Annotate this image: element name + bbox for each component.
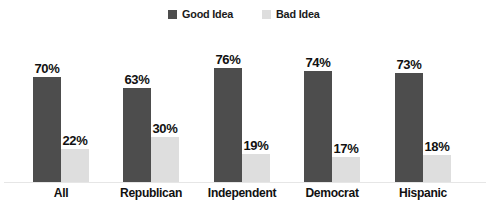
bar-value-label: 70%: [34, 62, 59, 75]
bar-group: 74%17%: [304, 33, 360, 182]
bar-good-idea[interactable]: 70%: [33, 77, 61, 182]
bar-value-label: 74%: [305, 56, 330, 69]
legend-item-good-idea: Good Idea: [168, 9, 236, 21]
bar-group: 73%18%: [395, 33, 451, 182]
bar-group: 76%19%: [214, 33, 270, 182]
bar-chart: Good Idea Bad Idea 70%22%63%30%76%19%74%…: [0, 0, 490, 217]
bar-value-label: 19%: [243, 139, 268, 152]
bar-pair: 73%18%: [395, 73, 451, 183]
bar-rect[interactable]: [123, 88, 151, 183]
bar-bad-idea[interactable]: 22%: [61, 149, 89, 182]
legend-swatch-bad-idea: [262, 10, 271, 19]
bar-pair: 63%30%: [123, 88, 179, 183]
plot-area: 70%22%63%30%76%19%74%17%73%18%: [0, 33, 490, 183]
bar-pair: 76%19%: [214, 68, 270, 182]
bar-value-label: 76%: [215, 53, 240, 66]
bar-rect[interactable]: [61, 149, 89, 182]
category-label: Democrat: [305, 186, 358, 201]
bar-bad-idea[interactable]: 19%: [242, 154, 270, 183]
bar-value-label: 17%: [333, 142, 358, 155]
bar-good-idea[interactable]: 74%: [304, 71, 332, 182]
bar-rect[interactable]: [304, 71, 332, 182]
bar-rect[interactable]: [423, 155, 451, 182]
axis-baseline: [4, 182, 486, 183]
bar-bad-idea[interactable]: 17%: [332, 157, 360, 183]
bar-pair: 74%17%: [304, 71, 360, 182]
bar-value-label: 63%: [124, 73, 149, 86]
bar-rect[interactable]: [332, 157, 360, 183]
bar-rect[interactable]: [33, 77, 61, 182]
legend-swatch-good-idea: [168, 10, 177, 19]
chart-legend: Good Idea Bad Idea: [0, 9, 490, 21]
category-label: All: [54, 186, 68, 201]
bar-rect[interactable]: [151, 137, 179, 182]
category-label: Hispanic: [399, 186, 447, 201]
bar-bad-idea[interactable]: 30%: [151, 137, 179, 182]
bar-good-idea[interactable]: 73%: [395, 73, 423, 183]
bar-good-idea[interactable]: 63%: [123, 88, 151, 183]
legend-item-bad-idea: Bad Idea: [262, 9, 322, 21]
category-label: Independent: [208, 186, 276, 201]
bar-good-idea[interactable]: 76%: [214, 68, 242, 182]
bar-bad-idea[interactable]: 18%: [423, 155, 451, 182]
legend-label-good-idea: Good Idea: [182, 9, 233, 21]
bar-value-label: 30%: [152, 122, 177, 135]
bar-pair: 70%22%: [33, 77, 89, 182]
bar-value-label: 73%: [396, 58, 421, 71]
bar-value-label: 22%: [62, 134, 87, 147]
legend-label-bad-idea: Bad Idea: [276, 9, 320, 21]
bar-group: 63%30%: [123, 33, 179, 182]
bar-rect[interactable]: [214, 68, 242, 182]
bar-group: 70%22%: [33, 33, 89, 182]
category-axis-labels: AllRepublicanIndependentDemocratHispanic: [0, 186, 490, 208]
category-label: Republican: [120, 186, 182, 201]
bar-rect[interactable]: [395, 73, 423, 183]
bar-rect[interactable]: [242, 154, 270, 183]
bar-value-label: 18%: [424, 140, 449, 153]
